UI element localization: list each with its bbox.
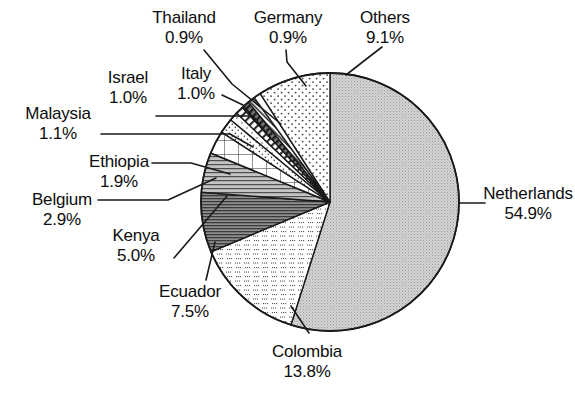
label-percent-israel: 1.0% — [98, 88, 158, 108]
label-name-malaysia: Malaysia — [14, 104, 102, 124]
label-percent-netherlands: 54.9% — [478, 204, 575, 224]
slice-label-germany: Germany 0.9% — [242, 8, 334, 48]
slice-label-italy: Italy 1.0% — [168, 64, 224, 104]
slice-label-belgium: Belgium 2.9% — [22, 190, 102, 230]
slice-label-israel: Israel 1.0% — [98, 68, 158, 108]
slice-label-malaysia: Malaysia 1.1% — [14, 104, 102, 144]
label-name-ethiopia: Ethiopia — [82, 152, 156, 172]
label-percent-colombia: 13.8% — [252, 362, 362, 382]
label-percent-ethiopia: 1.9% — [82, 172, 156, 192]
label-name-colombia: Colombia — [252, 342, 362, 362]
slice-label-netherlands: Netherlands 54.9% — [478, 184, 575, 224]
label-name-kenya: Kenya — [100, 226, 172, 246]
pie-slices-group — [201, 73, 459, 331]
label-percent-belgium: 2.9% — [22, 210, 102, 230]
label-percent-others: 9.1% — [348, 28, 422, 48]
label-name-thailand: Thailand — [136, 8, 232, 28]
slice-label-others: Others 9.1% — [348, 8, 422, 48]
label-percent-italy: 1.0% — [168, 84, 224, 104]
slice-label-ethiopia: Ethiopia 1.9% — [82, 152, 156, 192]
pie-chart-figure: Thailand 0.9% Germany 0.9% Others 9.1% I… — [0, 0, 575, 407]
label-percent-germany: 0.9% — [242, 28, 334, 48]
label-name-italy: Italy — [168, 64, 224, 84]
slice-label-kenya: Kenya 5.0% — [100, 226, 172, 266]
label-percent-thailand: 0.9% — [136, 28, 232, 48]
leader-line-others — [346, 47, 382, 75]
label-percent-kenya: 5.0% — [100, 246, 172, 266]
label-name-germany: Germany — [242, 8, 334, 28]
slice-label-colombia: Colombia 13.8% — [252, 342, 362, 382]
label-name-belgium: Belgium — [22, 190, 102, 210]
slice-label-thailand: Thailand 0.9% — [136, 8, 232, 48]
label-name-ecuador: Ecuador — [148, 282, 232, 302]
label-name-others: Others — [348, 8, 422, 28]
label-name-israel: Israel — [98, 68, 158, 88]
label-name-netherlands: Netherlands — [478, 184, 575, 204]
label-percent-malaysia: 1.1% — [14, 124, 102, 144]
slice-label-ecuador: Ecuador 7.5% — [148, 282, 232, 322]
label-percent-ecuador: 7.5% — [148, 302, 232, 322]
